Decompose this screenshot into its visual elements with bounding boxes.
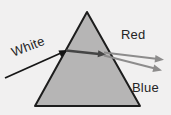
red-ray-label: Red	[121, 28, 145, 41]
blue-ray-label: Blue	[132, 81, 159, 94]
prism-dispersion-diagram: White Red Blue	[0, 0, 171, 115]
diagram-canvas	[0, 0, 171, 115]
